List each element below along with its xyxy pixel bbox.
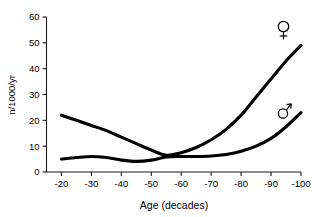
axes-group bbox=[47, 17, 302, 172]
series-curve-female bbox=[61, 45, 301, 155]
y-tick-label: 0 bbox=[34, 166, 39, 177]
x-tick-group bbox=[61, 172, 301, 176]
y-axis-title: n/1000/yr bbox=[6, 75, 17, 115]
x-tick-label-group: -20-30-40-50-60-70-80-90-100 bbox=[55, 178, 311, 189]
y-tick-label-group: 0102030405060 bbox=[29, 11, 40, 177]
x-tick-label: -90 bbox=[264, 178, 278, 189]
y-tick-label: 60 bbox=[29, 11, 40, 22]
series-group bbox=[61, 45, 301, 161]
x-tick-label: -80 bbox=[234, 178, 248, 189]
x-tick-label: -30 bbox=[85, 178, 99, 189]
y-tick-label: 40 bbox=[29, 63, 40, 74]
y-tick-label: 10 bbox=[29, 141, 40, 152]
y-tick-group bbox=[43, 17, 47, 172]
x-tick-label: -20 bbox=[55, 178, 69, 189]
y-tick-label: 30 bbox=[29, 89, 40, 100]
x-tick-label: -100 bbox=[291, 178, 310, 189]
male-symbol bbox=[278, 104, 291, 118]
chart-container: 0102030405060 -20-30-40-50-60-70-80-90-1… bbox=[0, 0, 320, 217]
x-tick-label: -60 bbox=[174, 178, 188, 189]
x-axis-title: Age (decades) bbox=[140, 199, 208, 211]
female-symbol bbox=[278, 21, 288, 39]
y-tick-label: 20 bbox=[29, 115, 40, 126]
x-tick-label: -40 bbox=[114, 178, 128, 189]
x-tick-label: -70 bbox=[204, 178, 218, 189]
y-tick-label: 50 bbox=[29, 37, 40, 48]
x-tick-label: -50 bbox=[144, 178, 158, 189]
line-chart: 0102030405060 -20-30-40-50-60-70-80-90-1… bbox=[0, 0, 320, 217]
